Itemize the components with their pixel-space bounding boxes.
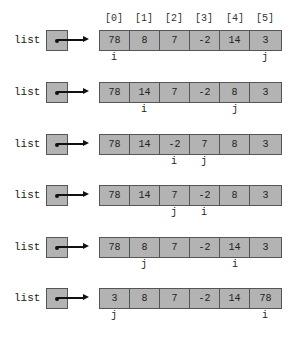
pointer-i-label: i (129, 104, 159, 115)
index-header: [0] [1] [2] [3] [4] [5] (99, 13, 281, 27)
pointer-j-label: j (159, 207, 189, 218)
array-cell: 3 (250, 238, 281, 257)
pointer-i-label: i (250, 310, 280, 321)
array-cell: 3 (100, 289, 130, 308)
array-cell: 78 (100, 135, 130, 154)
reference-box (46, 82, 68, 103)
array-cell: 7 (160, 186, 190, 205)
array-box: 7887-2143 (99, 30, 282, 51)
array-cell: -2 (190, 186, 220, 205)
pointer-j-label: j (129, 259, 159, 270)
array-cell: -2 (190, 83, 220, 102)
reference-box (46, 30, 68, 51)
reference-arrow-icon (57, 194, 85, 196)
array-cell: 3 (250, 186, 281, 205)
array-cell: 8 (220, 83, 250, 102)
array-cell: 7 (160, 31, 190, 50)
array-cell: 8 (130, 238, 160, 257)
index-label: [3] (189, 13, 219, 24)
array-cell: 7 (160, 238, 190, 257)
array-box: 78147-283 (99, 185, 282, 206)
variable-label: list (14, 86, 40, 98)
array-cell: -2 (160, 135, 190, 154)
pointer-i-label: i (159, 156, 189, 167)
array-cell: 8 (130, 31, 160, 50)
array-cell: 14 (220, 238, 250, 257)
array-state-row: list78147-283ij (0, 82, 295, 122)
variable-label: list (14, 292, 40, 304)
reference-box (46, 134, 68, 155)
reference-box (46, 185, 68, 206)
array-cell: -2 (190, 31, 220, 50)
reference-arrow-icon (57, 297, 85, 299)
reference-arrow-icon (57, 143, 85, 145)
array-state-row: list78147-283ij (0, 185, 295, 225)
array-cell: 7 (160, 83, 190, 102)
reference-arrow-icon (57, 246, 85, 248)
array-state-row: list7887-2143ij (0, 237, 295, 277)
index-label: [4] (220, 13, 250, 24)
reference-arrow-icon (57, 91, 85, 93)
reference-box (46, 288, 68, 309)
reference-arrow-icon (57, 39, 85, 41)
index-label: [5] (250, 13, 280, 24)
variable-label: list (14, 138, 40, 150)
array-cell: 14 (130, 135, 160, 154)
array-box: 7887-2143 (99, 237, 282, 258)
variable-label: list (14, 241, 40, 253)
array-box: 78147-283 (99, 82, 282, 103)
array-cell: 8 (220, 135, 250, 154)
pointer-i-label: i (99, 52, 129, 63)
array-box: 7814-2783 (99, 134, 282, 155)
array-cell: 78 (250, 289, 281, 308)
array-cell: 14 (220, 289, 250, 308)
pointer-i-label: i (220, 259, 250, 270)
array-cell: 78 (100, 186, 130, 205)
array-state-row: list387-21478ij (0, 288, 295, 328)
array-cell: 14 (220, 31, 250, 50)
array-cell: 78 (100, 83, 130, 102)
array-cell: -2 (190, 289, 220, 308)
array-cell: 7 (190, 135, 220, 154)
variable-label: list (14, 34, 40, 46)
pointer-j-label: j (189, 156, 219, 167)
index-label: [2] (159, 13, 189, 24)
pointer-i-label: i (189, 207, 219, 218)
array-cell: 3 (250, 31, 281, 50)
array-cell: 3 (250, 83, 281, 102)
array-cell: -2 (190, 238, 220, 257)
variable-label: list (14, 189, 40, 201)
pointer-j-label: j (250, 52, 280, 63)
array-cell: 7 (160, 289, 190, 308)
index-label: [0] (99, 13, 129, 24)
array-cell: 78 (100, 31, 130, 50)
array-state-row: list7887-2143ij (0, 30, 295, 70)
array-cell: 8 (130, 289, 160, 308)
pointer-j-label: j (220, 104, 250, 115)
array-cell: 8 (220, 186, 250, 205)
pointer-j-label: j (99, 310, 129, 321)
array-cell: 78 (100, 238, 130, 257)
reference-box (46, 237, 68, 258)
index-label: [1] (129, 13, 159, 24)
array-box: 387-21478 (99, 288, 282, 309)
array-state-row: list7814-2783ij (0, 134, 295, 174)
array-cell: 14 (130, 186, 160, 205)
array-cell: 3 (250, 135, 281, 154)
array-cell: 14 (130, 83, 160, 102)
